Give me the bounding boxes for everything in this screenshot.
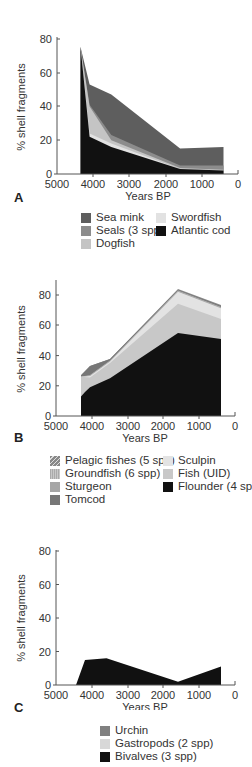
swatch-tomcod-icon — [50, 495, 60, 505]
panel-letter-c: C — [14, 700, 23, 715]
swatch-atlantic-cod-icon — [156, 226, 166, 236]
legend-item: Dogfish — [81, 237, 156, 250]
x-tick-c-2000: 2000 — [151, 689, 175, 701]
legend-label: Fish (UID) — [178, 467, 230, 480]
legend-label: Pelagic fishes (5 spp) — [65, 454, 175, 467]
legend-label: Groundfish (6 spp) — [65, 467, 160, 480]
x-axis-label-b: Years BP — [122, 432, 167, 444]
y-axis-label-a: % shell fragments — [15, 63, 27, 151]
legend-label: Sculpin — [178, 454, 216, 467]
chart-a: 80 60 40 20 0 5000 4000 3000 2000 1000 0… — [0, 0, 252, 200]
legend-label: Tomcod — [65, 493, 105, 506]
swatch-groundfish-icon — [50, 469, 60, 479]
x-tick-b-5000: 5000 — [44, 420, 68, 432]
x-tick-c-0: 0 — [232, 689, 238, 701]
x-tick-b-3000: 3000 — [116, 420, 140, 432]
legend-item: Groundfish (6 spp) — [50, 467, 163, 480]
x-tick-c-4000: 4000 — [80, 689, 104, 701]
legend-label: Seals (3 spp) — [96, 224, 164, 237]
y-tick-c-40: 40 — [39, 612, 51, 624]
y-axis-label-c: % shell fragments — [15, 574, 27, 662]
legend-item: Sturgeon — [50, 480, 163, 493]
panel-b: 80 60 40 20 0 5000 4000 3000 2000 1000 0… — [0, 250, 252, 510]
swatch-urchin-icon — [100, 726, 110, 736]
legend-label: Dogfish — [96, 237, 135, 250]
y-tick-b-80: 80 — [39, 289, 51, 301]
y-tick-c-60: 60 — [39, 579, 51, 591]
legend-item: Atlantic cod — [156, 224, 230, 237]
panel-letter-a: A — [14, 190, 23, 205]
y-tick-c-80: 80 — [39, 545, 51, 557]
legend-label: Bivalves (3 spp) — [115, 750, 197, 763]
x-tick-a-0: 0 — [235, 178, 241, 190]
swatch-seals-icon — [81, 226, 91, 236]
panel-c: 80 60 40 20 0 5000 4000 3000 2000 1000 0… — [0, 510, 252, 767]
chart-c: 80 60 40 20 0 5000 4000 3000 2000 1000 0… — [0, 510, 252, 710]
legend-a: Sea mink Seals (3 spp) Dogfish Swordfish… — [81, 211, 230, 250]
x-axis-label-c: Years BP — [122, 701, 167, 710]
y-tick-b-60: 60 — [39, 319, 51, 331]
legend-b: Pelagic fishes (5 spp) Groundfish (6 spp… — [50, 454, 252, 506]
swatch-sculpin-icon — [163, 456, 173, 466]
x-tick-c-5000: 5000 — [44, 689, 68, 701]
x-tick-a-2000: 2000 — [154, 178, 178, 190]
panel-letter-b: B — [14, 430, 23, 445]
legend-item: Bivalves (3 spp) — [100, 750, 213, 763]
legend-item: Flounder (4 sp) — [163, 480, 252, 493]
legend-item: Tomcod — [50, 493, 163, 506]
swatch-swordfish-icon — [156, 213, 166, 223]
legend-label: Gastropods (2 spp) — [115, 737, 213, 750]
legend-item: Fish (UID) — [163, 467, 252, 480]
x-tick-b-0: 0 — [232, 420, 238, 432]
x-tick-b-1000: 1000 — [187, 420, 211, 432]
swatch-bivalves-icon — [100, 752, 110, 762]
y-tick-b-20: 20 — [39, 380, 51, 392]
legend-label: Sea mink — [96, 211, 144, 224]
legend-label: Swordfish — [171, 211, 222, 224]
swatch-sturgeon-icon — [50, 482, 60, 492]
legend-item: Pelagic fishes (5 spp) — [50, 454, 163, 467]
x-tick-a-1000: 1000 — [190, 178, 214, 190]
legend-item: Sea mink — [81, 211, 156, 224]
area-bivalves — [76, 658, 221, 685]
x-tick-a-4000: 4000 — [81, 178, 105, 190]
chart-b: 80 60 40 20 0 5000 4000 3000 2000 1000 0… — [0, 250, 252, 450]
y-axis-label-b: % shell fragments — [15, 305, 27, 393]
x-tick-c-1000: 1000 — [187, 689, 211, 701]
panel-a: 80 60 40 20 0 5000 4000 3000 2000 1000 0… — [0, 0, 252, 250]
legend-c: Urchin Gastropods (2 spp) Bivalves (3 sp… — [100, 724, 213, 763]
legend-item: Swordfish — [156, 211, 230, 224]
swatch-dogfish-icon — [81, 239, 91, 249]
y-tick-a-80: 80 — [40, 33, 52, 45]
y-tick-a-60: 60 — [40, 67, 52, 79]
y-tick-a-40: 40 — [40, 100, 52, 112]
swatch-pelagic-fishes-icon — [50, 456, 60, 466]
swatch-fish-uid-icon — [163, 469, 173, 479]
y-tick-c-20: 20 — [39, 646, 51, 658]
y-tick-b-40: 40 — [39, 350, 51, 362]
legend-item: Sculpin — [163, 454, 252, 467]
legend-item: Urchin — [100, 724, 213, 737]
x-tick-b-2000: 2000 — [151, 420, 175, 432]
x-tick-a-3000: 3000 — [117, 178, 141, 190]
y-tick-a-20: 20 — [40, 134, 52, 146]
legend-label: Atlantic cod — [171, 224, 230, 237]
legend-label: Urchin — [115, 724, 148, 737]
x-tick-a-5000: 5000 — [45, 178, 69, 190]
x-tick-b-4000: 4000 — [80, 420, 104, 432]
legend-label: Flounder (4 sp) — [178, 480, 252, 493]
swatch-gastropods-icon — [100, 739, 110, 749]
legend-item: Gastropods (2 spp) — [100, 737, 213, 750]
x-tick-c-3000: 3000 — [116, 689, 140, 701]
legend-item: Seals (3 spp) — [81, 224, 156, 237]
legend-label: Sturgeon — [65, 480, 112, 493]
swatch-sea-mink-icon — [81, 213, 91, 223]
swatch-flounder-icon — [163, 482, 173, 492]
x-axis-label-a: Years BP — [125, 190, 170, 200]
